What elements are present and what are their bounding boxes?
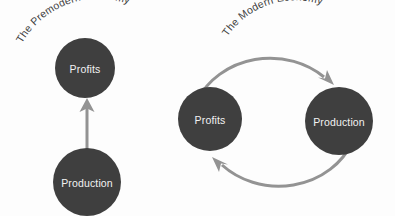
premodern-economy-diagram: The Premodern Economy Profits Production… <box>0 0 395 216</box>
modern-production-label: Production <box>313 116 365 128</box>
premodern-profits-label: Profits <box>70 63 101 75</box>
modern-profits-label: Profits <box>195 114 226 126</box>
modern-arrow-top-head-icon <box>318 70 334 85</box>
premodern-title-text: The Premodern Economy <box>13 0 132 45</box>
premodern-edge-production-to-profits <box>80 98 95 152</box>
premodern-node-profits[interactable]: Profits <box>55 38 115 98</box>
modern-title: The Modern Economy <box>219 0 325 38</box>
premodern-node-production[interactable]: Production <box>53 148 121 216</box>
modern-title-text: The Modern Economy <box>219 0 325 38</box>
premodern-production-label: Production <box>61 177 113 189</box>
diagram-canvas: The Premodern Economy Profits Production… <box>0 0 395 216</box>
modern-node-profits[interactable]: Profits <box>178 87 242 151</box>
modern-node-production[interactable]: Production <box>305 87 373 155</box>
premodern-title: The Premodern Economy <box>13 0 132 45</box>
